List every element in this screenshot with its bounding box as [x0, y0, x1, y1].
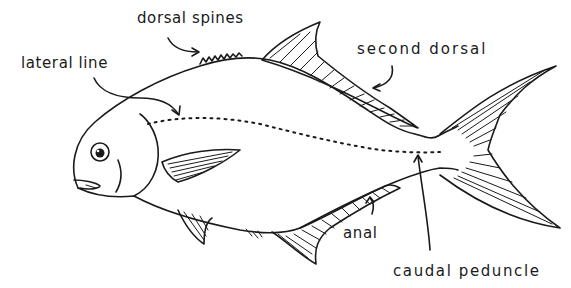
lateral-line-shape	[148, 118, 440, 152]
label-dorsal-spines: dorsal spines	[137, 11, 244, 26]
anal-fin	[272, 185, 400, 264]
fish-diagram: dorsal spines lateral line second dorsal…	[0, 0, 571, 288]
annotation-arrows	[94, 38, 430, 250]
pectoral-fin	[162, 150, 240, 183]
caudal-fin	[440, 66, 560, 228]
second-dorsal-fin	[262, 22, 418, 128]
label-lateral-line: lateral line	[21, 56, 108, 71]
label-anal: anal	[343, 226, 377, 241]
label-second-dorsal: second dorsal	[357, 42, 487, 57]
label-caudal-peduncle: caudal peduncle	[393, 264, 541, 279]
fish-body-outline	[74, 58, 458, 233]
anal-spines	[246, 229, 262, 238]
